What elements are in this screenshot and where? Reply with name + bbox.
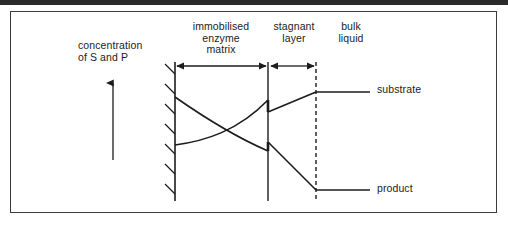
curve-label-substrate: substrate [377, 84, 421, 96]
region-label-bulk-liquid: bulk liquid [328, 21, 374, 44]
curve-label-product: product [377, 183, 413, 195]
figure-screenshot: concentration of S and P immobilised enz… [0, 0, 508, 225]
support-wall-hatched-line [165, 62, 175, 201]
region-label-immobilised-enzyme-matrix: immobilised enzyme matrix [177, 21, 265, 56]
substrate-curve [175, 92, 370, 145]
region-label-stagnant-layer: stagnant layer [268, 21, 320, 44]
y-axis-label: concentration of S and P [78, 40, 142, 63]
